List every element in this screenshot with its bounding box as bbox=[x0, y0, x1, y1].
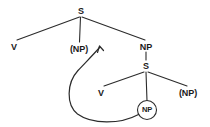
branch-se-to-np-moved bbox=[146, 72, 147, 101]
node-s-root: S bbox=[78, 7, 84, 16]
node-v-embedded: V bbox=[98, 89, 104, 98]
movement-arrowhead-icon bbox=[98, 46, 104, 53]
node-np-object: NP bbox=[140, 43, 152, 52]
node-np-trace-top: (NP) bbox=[70, 45, 88, 54]
node-np-trace-low: (NP) bbox=[179, 89, 197, 98]
node-s-embedded: S bbox=[143, 62, 149, 71]
branch-se-to-v bbox=[104, 72, 144, 86]
branch-se-to-np-trace-low bbox=[148, 72, 187, 86]
movement-arrow-path bbox=[69, 48, 138, 122]
branch-s-to-np bbox=[82, 17, 145, 40]
branch-s-to-v bbox=[17, 17, 80, 40]
syntax-tree-diagram: S V (NP) NP S V NP (NP) bbox=[0, 0, 210, 127]
tree-lines bbox=[0, 0, 210, 127]
branch-s-to-np-trace bbox=[80, 17, 81, 42]
node-np-moved: NP bbox=[142, 106, 152, 114]
node-v-matrix: V bbox=[11, 43, 17, 52]
